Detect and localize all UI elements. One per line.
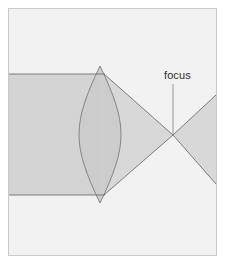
focus-label: focus bbox=[164, 69, 191, 82]
optics-figure: focus bbox=[0, 0, 226, 265]
ray-diagram-canvas bbox=[0, 0, 226, 265]
